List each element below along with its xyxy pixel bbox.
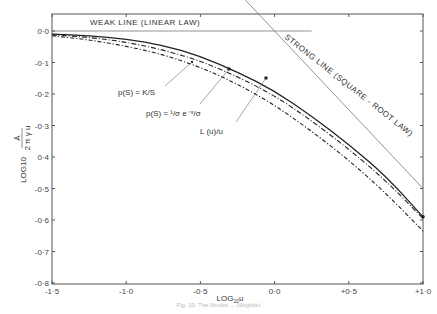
y-label-numerator: Ā bbox=[13, 135, 22, 141]
weak-line-label: WEAK LINE (LINEAR LAW) bbox=[90, 18, 200, 27]
y-tick-label: 0·4 bbox=[37, 153, 49, 162]
y-tick-label: -0·6 bbox=[35, 216, 50, 225]
y-label-log: LOG10 bbox=[19, 157, 28, 183]
series-strong-line-square-root-law- bbox=[238, 0, 424, 189]
y-tick-label: -0·3 bbox=[35, 122, 50, 131]
y-tick-label: -0·7 bbox=[35, 248, 50, 257]
line-chart: -1·5-1·0-0·50·0+0·5+1·00·0-0·1-0·2-0·30·… bbox=[0, 0, 437, 314]
y-axis-label: LOG10Ā2 π γ u bbox=[13, 125, 32, 182]
series-p-s-1-e-s- bbox=[52, 35, 423, 219]
y-tick-label: -0·5 bbox=[35, 185, 50, 194]
annotation-exp: p(S) = ¹/σ e⁻ˢ/σ bbox=[146, 109, 201, 118]
leader-ks bbox=[165, 62, 192, 86]
y-tick-label: 0·0 bbox=[37, 27, 49, 36]
annotation-ks: p(S) = K/S bbox=[118, 88, 155, 97]
y-tick-label: -0·2 bbox=[35, 90, 50, 99]
annotation-lu: L (u)/u bbox=[200, 127, 223, 136]
x-tick-label: -1·5 bbox=[45, 287, 60, 296]
strong-line-label: STRONG LINE (SQUARE - ROOT LAW) bbox=[283, 32, 415, 138]
y-tick-label: -0·1 bbox=[35, 59, 50, 68]
plot-frame bbox=[52, 14, 423, 284]
x-tick-label: +0·5 bbox=[341, 287, 358, 296]
series-p-s-k-s bbox=[52, 36, 423, 231]
leader-lu bbox=[236, 78, 266, 122]
x-tick-label: 0·0 bbox=[269, 287, 281, 296]
leader-exp bbox=[200, 69, 229, 104]
x-tick-label: -0·5 bbox=[193, 287, 208, 296]
y-tick-label: -0·8 bbox=[35, 279, 50, 288]
x-tick-label: -1·0 bbox=[119, 287, 134, 296]
x-tick-label: +1·0 bbox=[415, 287, 432, 296]
series-l-u-u bbox=[52, 34, 423, 217]
chart-container: -1·5-1·0-0·50·0+0·5+1·00·0-0·1-0·2-0·30·… bbox=[0, 0, 437, 314]
end-marker bbox=[421, 215, 425, 219]
figure-caption: Fig. 10. The Modes ... (illegible) bbox=[0, 302, 437, 308]
y-label-denominator: 2 π γ u bbox=[23, 125, 32, 150]
